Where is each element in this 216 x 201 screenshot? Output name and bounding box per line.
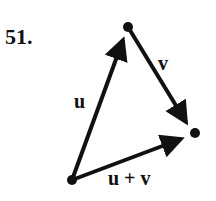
- label-u-plus-v: u + v: [108, 167, 151, 189]
- origin-point: [67, 175, 77, 185]
- vector-diagram: u v u + v: [0, 0, 216, 201]
- vector-v: [128, 27, 186, 122]
- label-v: v: [158, 52, 168, 74]
- tip-u-point: [123, 22, 133, 32]
- tip-sum-point: [190, 128, 200, 138]
- label-u: u: [74, 90, 85, 112]
